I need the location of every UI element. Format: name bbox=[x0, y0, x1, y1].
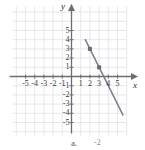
graph-figure: -5-4-3-2-112345 54321-1-2-3-4-5 x y a. -… bbox=[0, 0, 145, 150]
y-tick-label: -2 bbox=[58, 91, 70, 99]
y-axis-label: y bbox=[61, 2, 65, 11]
x-tick-label: 5 bbox=[112, 80, 124, 88]
axes-lines bbox=[10, 4, 138, 133]
y-tick-label: 5 bbox=[58, 27, 70, 35]
y-tick-label: 4 bbox=[58, 36, 70, 44]
y-tick-label: 2 bbox=[58, 54, 70, 62]
coordinate-plane bbox=[0, 0, 145, 150]
caption-letter: a. bbox=[71, 140, 77, 148]
y-tick-label: -1 bbox=[58, 82, 70, 90]
caption-value: -2 bbox=[94, 139, 101, 147]
y-tick-label: 3 bbox=[58, 45, 70, 53]
y-tick-label: -3 bbox=[58, 100, 70, 108]
y-tick-label: -5 bbox=[58, 119, 70, 127]
y-tick-label: 1 bbox=[58, 63, 70, 71]
y-tick-label: -4 bbox=[58, 109, 70, 117]
x-axis-label: x bbox=[133, 81, 137, 90]
